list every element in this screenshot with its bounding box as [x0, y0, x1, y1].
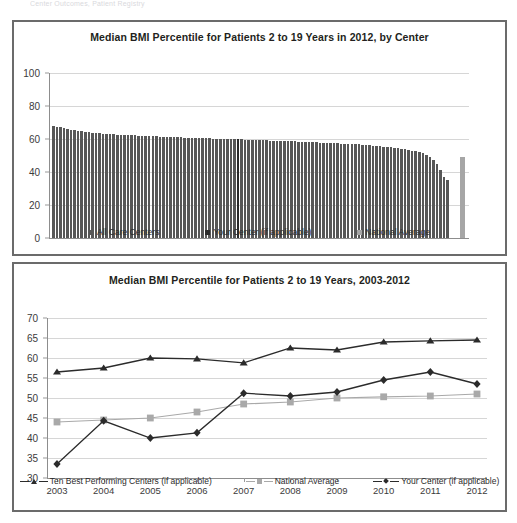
bar-care-center — [73, 130, 76, 238]
bar-chart-gridline — [49, 73, 469, 74]
bar-care-center — [95, 133, 98, 238]
line-series-marker — [54, 419, 61, 426]
bar-care-center — [52, 126, 55, 238]
bar-care-center — [365, 145, 368, 238]
line-series-marker — [194, 409, 201, 416]
bar-care-center — [226, 139, 229, 238]
legend-line-segment-icon — [39, 481, 48, 482]
bar-care-center — [180, 137, 183, 238]
bar-care-center — [70, 130, 73, 238]
bar-care-center — [105, 134, 108, 238]
bar-care-center — [230, 139, 233, 238]
bar-chart-gridline — [49, 106, 469, 107]
bar-care-center — [244, 140, 247, 239]
line-chart-x-tick-label: 2010 — [373, 485, 394, 496]
line-chart-x-tick-label: 2003 — [46, 485, 67, 496]
bar-care-center — [393, 148, 396, 238]
bar-care-center — [358, 144, 361, 238]
bar-legend-label: National Average — [365, 227, 430, 237]
bar-care-center — [429, 157, 432, 238]
bar-care-center — [155, 136, 158, 238]
bar-legend-item: Your Center (if applicable) — [205, 227, 311, 237]
bar-care-center — [322, 143, 325, 238]
bar-chart-legend: All Care CentersYour Center (if applicab… — [14, 227, 505, 237]
line-chart-x-tick-label: 2008 — [280, 485, 301, 496]
bar-care-center — [382, 147, 385, 238]
bar-care-center — [166, 137, 169, 238]
cut-off-header-text: Center Outcomes, Patient Registry — [30, 0, 280, 8]
line-series-marker — [474, 391, 481, 398]
bar-care-center — [422, 153, 425, 238]
bar-care-center — [290, 141, 293, 238]
line-chart-y-tick-label: 65 — [27, 333, 38, 344]
bar-care-center — [258, 140, 261, 238]
bar-care-center — [294, 141, 297, 238]
bar-care-center — [343, 144, 346, 238]
bar-care-center — [176, 137, 179, 238]
line-chart-x-tick-label: 2004 — [93, 485, 114, 496]
line-chart-x-tick-label: 2005 — [140, 485, 161, 496]
bar-care-center — [386, 147, 389, 238]
bar-care-center — [162, 137, 165, 238]
bar-care-center — [351, 144, 354, 238]
line-chart-panel: Median BMI Percentile for Patients 2 to … — [12, 262, 507, 512]
bar-care-center — [233, 139, 236, 238]
bar-care-center — [425, 155, 428, 238]
bar-care-center — [159, 137, 162, 238]
line-series-marker — [147, 434, 154, 442]
bar-care-center — [301, 142, 304, 238]
bar-care-center — [215, 139, 218, 238]
line-series-path — [57, 394, 477, 422]
legend-square-marker-icon — [257, 479, 262, 484]
bar-care-center — [361, 145, 364, 238]
bar-care-center — [311, 142, 314, 238]
bar-care-center — [77, 131, 80, 238]
line-series-marker — [380, 393, 387, 400]
bar-care-center — [414, 151, 417, 238]
bar-care-center — [144, 136, 147, 238]
line-chart-y-tick-label: 45 — [27, 413, 38, 424]
bar-care-center — [80, 131, 83, 238]
bar-care-center — [279, 141, 282, 238]
bar-care-center — [198, 138, 201, 238]
bar-care-center — [411, 151, 414, 238]
legend-swatch-icon — [89, 230, 94, 235]
line-legend-label: National Average — [275, 476, 340, 486]
bar-chart-y-tick-label: 80 — [29, 101, 40, 112]
bar-care-center — [194, 138, 197, 238]
bar-care-center — [326, 143, 329, 238]
line-series-marker — [147, 415, 154, 422]
bar-care-center — [379, 146, 382, 238]
bar-chart-y-axis — [49, 73, 50, 238]
line-chart-y-tick-label: 40 — [27, 433, 38, 444]
bar-care-center — [130, 135, 133, 238]
line-chart-y-tick-label: 70 — [27, 313, 38, 324]
line-chart-x-tick-label: 2009 — [326, 485, 347, 496]
bar-legend-item: National Average — [357, 227, 430, 237]
line-series-marker — [427, 368, 434, 376]
bar-care-center — [109, 134, 112, 238]
bar-care-center — [191, 138, 194, 238]
line-chart-x-tick-label: 2012 — [466, 485, 487, 496]
line-chart-legend: Ten Best Performing Centers (if applicab… — [14, 476, 505, 486]
bar-care-center — [208, 138, 211, 238]
line-series-marker — [240, 401, 247, 408]
line-series-marker — [473, 380, 480, 388]
bar-care-center — [276, 141, 279, 238]
legend-line-segment-icon — [373, 481, 382, 482]
bar-care-center — [127, 135, 130, 238]
bar-care-center — [272, 141, 275, 238]
bar-care-center — [169, 137, 172, 238]
bar-care-center — [336, 143, 339, 238]
bar-care-center — [255, 140, 258, 238]
bar-care-center — [59, 127, 62, 238]
bar-care-center — [333, 143, 336, 238]
legend-line-segment-icon — [20, 481, 29, 482]
bar-care-center — [240, 139, 243, 238]
bar-care-center — [120, 135, 123, 238]
legend-triangle-marker-icon — [31, 479, 37, 484]
bar-care-center — [347, 144, 350, 238]
line-chart-x-tick-label: 2011 — [420, 485, 440, 496]
bar-care-center — [148, 136, 151, 238]
bar-care-center — [329, 143, 332, 238]
